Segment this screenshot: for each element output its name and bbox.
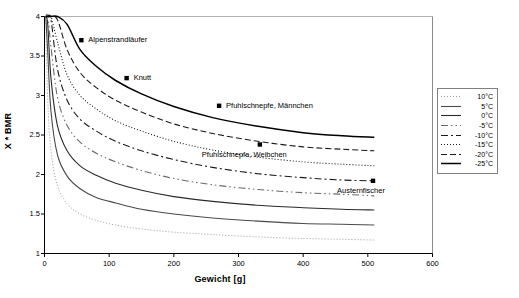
y-tick-label: 1.5	[20, 209, 40, 218]
series-line-10C	[46, 20, 375, 240]
y-tick-label: 3	[20, 91, 40, 100]
legend-item[interactable]: -5°C	[440, 121, 495, 131]
x-tick-label: 600	[419, 259, 447, 268]
x-tick-label: 500	[354, 259, 382, 268]
legend-item[interactable]: -25°C	[440, 159, 495, 169]
legend-item[interactable]: 5°C	[440, 102, 495, 112]
legend-line-swatch	[440, 111, 462, 120]
series-line-minus25C	[46, 16, 375, 137]
legend-item-label: 10°C	[462, 93, 495, 100]
legend-item-label: 5°C	[462, 103, 495, 110]
y-tick-label: 2	[20, 170, 40, 179]
legend-item-label: -10°C	[462, 132, 495, 139]
legend-item-label: -25°C	[462, 160, 495, 167]
x-tick-label: 200	[160, 259, 188, 268]
y-tick-label: 2.5	[20, 130, 40, 139]
data-point-marker	[258, 142, 262, 146]
legend-item[interactable]: -20°C	[440, 150, 495, 160]
legend-line-swatch	[440, 140, 462, 149]
data-point-marker	[217, 104, 221, 108]
x-axis-title: Gewicht [g]	[0, 274, 440, 284]
y-tick-label: 3.5	[20, 51, 40, 60]
series-line-0C	[46, 17, 375, 211]
data-point-label: Austernfischer	[337, 186, 385, 195]
data-point-marker	[124, 76, 128, 80]
y-tick-label: 4	[20, 12, 40, 21]
x-tick-label: 300	[225, 259, 253, 268]
x-tick-label: 0	[31, 259, 59, 268]
data-point-marker	[79, 38, 83, 42]
legend-line-swatch	[440, 131, 462, 140]
legend-line-swatch	[440, 92, 462, 101]
y-tick-label: 1	[20, 249, 40, 258]
legend-line-swatch	[440, 121, 462, 130]
plot-frame	[45, 17, 433, 254]
legend-item[interactable]: -10°C	[440, 130, 495, 140]
data-point-marker	[371, 179, 375, 183]
legend-line-swatch	[440, 150, 462, 159]
data-point-label: Alpenstrandläufer	[88, 35, 147, 44]
chart-figure: Gewicht [g] X * BMR 0100200300400500600 …	[0, 0, 519, 298]
series-curves	[46, 14, 375, 240]
legend-item[interactable]: 0°C	[440, 111, 495, 121]
legend: 10°C5°C0°C-5°C-10°C-15°C-20°C-25°C	[437, 88, 498, 174]
legend-item[interactable]: 10°C	[440, 92, 495, 102]
legend-line-swatch	[440, 102, 462, 111]
legend-item-label: 0°C	[462, 112, 495, 119]
x-tick-label: 100	[95, 259, 123, 268]
legend-item-label: -5°C	[462, 122, 495, 129]
x-tick-label: 400	[289, 259, 317, 268]
legend-item-label: -20°C	[462, 151, 495, 158]
data-point-label: Pfuhlschnepfe, Männchen	[226, 101, 313, 110]
data-point-label: Knutt	[134, 73, 152, 82]
y-axis-title: X * BMR	[3, 101, 13, 161]
data-point-label: Pfuhlschnepfe, Weibchen	[202, 150, 287, 159]
legend-item-label: -15°C	[462, 141, 495, 148]
data-point-markers	[79, 38, 375, 183]
legend-line-swatch	[440, 159, 462, 168]
legend-item[interactable]: -15°C	[440, 140, 495, 150]
